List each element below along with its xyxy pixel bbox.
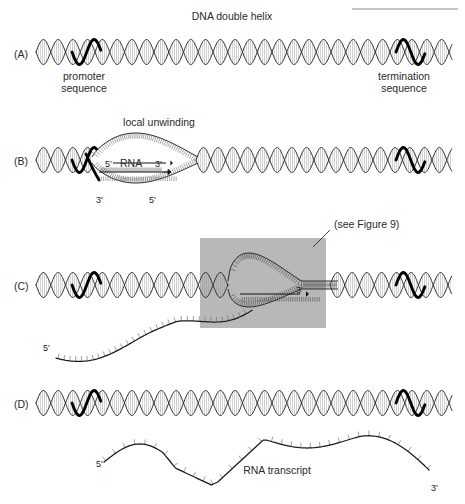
transcription-figure: DNA double helix (A) promoter sequence t… <box>0 0 465 504</box>
rna-name-label: RNA <box>120 157 142 169</box>
promoter-sequence-label-line2: sequence <box>61 82 107 94</box>
page-title: DNA double helix <box>192 10 273 22</box>
template-5prime-label: 5' <box>149 195 156 205</box>
see-figure-reference-label: (see Figure 9) <box>334 218 399 230</box>
termination-sequence-label-line1: termination <box>378 70 430 82</box>
rna-3prime-label: 3' <box>155 159 162 169</box>
local-unwinding-label: local unwinding <box>123 116 195 128</box>
rna-5prime-label: 5' <box>105 159 112 169</box>
panel-d-letter: (D) <box>14 398 29 410</box>
transcript-5prime-label: 5' <box>96 459 103 469</box>
transcript-3prime-label: 3' <box>431 483 438 493</box>
panel-a-letter: (A) <box>14 48 28 60</box>
rna-transcript-label: RNA transcript <box>243 464 311 476</box>
panel-b-letter: (B) <box>14 155 28 167</box>
callout-highlight-box <box>200 238 326 328</box>
promoter-sequence-label-line1: promoter <box>63 70 106 82</box>
template-3prime-label: 3' <box>96 195 103 205</box>
termination-sequence-label-line2: sequence <box>381 82 427 94</box>
rna-3prime-growing-label: 3' <box>296 285 303 295</box>
rna-5prime-free-end-label: 5' <box>43 343 50 353</box>
panel-c-letter: (C) <box>14 280 29 292</box>
